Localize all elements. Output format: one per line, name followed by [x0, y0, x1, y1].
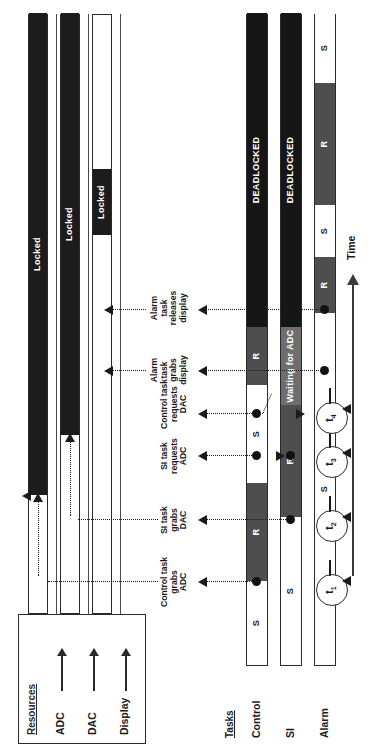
rail-line — [120, 14, 121, 614]
segment-si-deadlocked: DEADLOCKED — [281, 13, 301, 327]
resource-row-display: Display — [113, 613, 139, 743]
segment-control-s2: S — [247, 385, 267, 483]
event-dot-si-requests-adc — [286, 451, 295, 460]
dac-locked-span: Locked — [61, 13, 79, 435]
event-note-alarm-releases-display: Alarm task releases display — [150, 278, 189, 338]
time-marker-stem — [329, 388, 331, 404]
arrowhead-up-icon — [104, 305, 113, 315]
arrowhead-up-icon — [342, 448, 351, 458]
arrowhead-up-icon — [198, 409, 207, 419]
resource-label-display: Display — [118, 698, 130, 735]
resources-legend-box: Resources ADC DAC Display — [18, 614, 146, 744]
arrowhead-up-icon — [342, 576, 351, 586]
connector-dots — [205, 455, 254, 456]
display-locked-label: Locked — [96, 169, 106, 235]
arrowhead-up-icon — [104, 366, 113, 376]
connector-dots — [48, 581, 158, 582]
rotated-page-wrapper: Resources ADC DAC Display Locked Locked — [0, 0, 384, 752]
arrowhead-up-icon — [342, 512, 351, 522]
resource-row-dac: DAC — [81, 613, 107, 743]
tasks-heading: Tasks — [224, 710, 235, 738]
time-axis-arrow — [352, 276, 354, 576]
resources-heading: Resources — [26, 684, 37, 735]
adc-locked-span: Locked — [29, 13, 47, 495]
rail-line — [56, 14, 57, 614]
segment-si-r1: R — [281, 405, 301, 517]
resource-label-dac: DAC — [86, 712, 98, 735]
connector-dots — [205, 309, 323, 310]
arrowhead-up-icon — [198, 305, 207, 315]
connector-dots — [205, 370, 323, 371]
connector-dots — [70, 440, 71, 516]
connector-dots — [205, 519, 288, 520]
connector-dots — [112, 309, 146, 310]
connector-dots — [205, 581, 254, 582]
resource-label-adc: ADC — [54, 712, 66, 735]
event-note-alarm-grabs-display: Alarm task grabs display — [150, 340, 189, 400]
resource-row-adc: ADC — [49, 613, 75, 743]
task-bar-si: S R Waiting for ADC DEADLOCKED — [280, 14, 302, 666]
segment-alarm-r2: R — [315, 83, 335, 205]
display-locked-span: Locked — [93, 169, 111, 235]
arrowhead-down-icon — [276, 451, 285, 461]
arrowhead-right-icon — [33, 493, 43, 502]
segment-control-deadlocked: DEADLOCKED — [247, 13, 267, 327]
time-axis-label: Time — [345, 236, 357, 260]
segment-control-r2: R — [247, 327, 267, 385]
arrowhead-up-icon — [198, 515, 207, 525]
segment-si-s1: S — [281, 517, 301, 665]
task-label-control: Control — [250, 701, 262, 738]
task-bar-control: S R S R DEADLOCKED — [246, 14, 268, 666]
connector-dots — [112, 370, 146, 371]
time-marker-stem — [329, 496, 331, 512]
task-bar-alarm: S R S R S — [314, 14, 336, 666]
segment-control-r1: R — [247, 483, 267, 581]
arrowhead-up-icon — [22, 491, 31, 501]
right-arrow-icon — [61, 649, 63, 691]
connector-dots — [205, 413, 254, 414]
right-arrow-icon — [125, 649, 127, 691]
rail-line — [88, 14, 89, 614]
arrowhead-up-icon — [342, 404, 351, 414]
connector-dots — [38, 498, 39, 576]
segment-alarm-s2: S — [315, 205, 335, 257]
segment-si-waiting: Waiting for ADC — [281, 327, 301, 405]
timing-diagram-canvas: Resources ADC DAC Display Locked Locked — [0, 0, 384, 752]
task-label-alarm: Alarm — [318, 708, 330, 738]
segment-alarm-s3: S — [315, 13, 335, 83]
time-marker-stem — [329, 432, 331, 448]
arrowhead-up-icon — [198, 577, 207, 587]
dac-locked-label: Locked — [64, 13, 74, 435]
segment-control-s1: S — [247, 581, 267, 665]
right-arrow-icon — [93, 649, 95, 691]
arrowhead-down-icon — [296, 409, 305, 419]
arrowhead-right-icon — [65, 433, 75, 442]
adc-locked-label: Locked — [32, 13, 42, 495]
resource-bar-dac: Locked — [60, 14, 80, 614]
connector-dots — [78, 519, 158, 520]
time-marker-stem — [329, 560, 331, 576]
arrowhead-up-icon — [198, 366, 207, 376]
arrowhead-up-icon — [198, 451, 207, 461]
task-label-si: SI — [284, 728, 296, 738]
